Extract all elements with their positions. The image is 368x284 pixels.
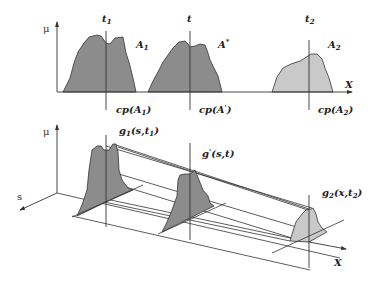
- curve-g2-shape: [290, 208, 327, 242]
- a2-label: A2: [327, 39, 341, 52]
- set-a-star-shape: [148, 41, 222, 92]
- a-star-label: A*: [217, 37, 230, 50]
- s-label: s: [17, 191, 22, 202]
- g2-label: g2(x,t2): [322, 187, 363, 200]
- t-label: t: [187, 13, 192, 24]
- set-a2-shape: [272, 54, 333, 92]
- g1-label: g1(s,t1): [119, 125, 159, 138]
- top-x-label: X: [344, 79, 354, 90]
- t1-label: t1: [102, 13, 112, 26]
- cp-a-prime-label: cp(A'): [199, 103, 232, 115]
- bottom-x-label: X: [333, 257, 343, 268]
- top-panel: μ X t1 t t2 A1 A* A2 cp(A1) cp(A') cp(A2…: [43, 13, 354, 117]
- cp-a1-label: cp(A1): [116, 104, 151, 117]
- bottom-x-axis: [309, 242, 346, 249]
- t2-label: t2: [305, 13, 315, 26]
- cp-a2-label: cp(A2): [318, 104, 353, 117]
- a1-label: A1: [135, 39, 149, 52]
- bottom-s-axis: [20, 193, 57, 210]
- bottom-mu-label: μ: [43, 126, 50, 137]
- set-a1-shape: [63, 35, 136, 92]
- top-mu-label: μ: [43, 23, 50, 34]
- bottom-panel: μ s X g1(s,t1) g'(s,t): [17, 125, 363, 270]
- g-prime-label: g'(s,t): [202, 147, 235, 160]
- diagram-canvas: μ X t1 t t2 A1 A* A2 cp(A1) cp(A') cp(A2…: [0, 0, 368, 284]
- curve-g1-shape: [77, 144, 133, 216]
